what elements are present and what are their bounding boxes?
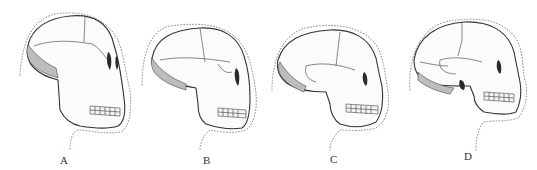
- panel-c-skull: [272, 25, 389, 150]
- panel-b-label: B: [203, 155, 210, 166]
- panel-d-label: D: [464, 151, 472, 162]
- panel-b-skull: [142, 24, 256, 150]
- skull-comparison-figure: A B C D: [0, 0, 537, 170]
- skull-illustrations: [0, 0, 537, 170]
- panel-c-label: C: [330, 154, 337, 165]
- panel-a-skull: [20, 13, 131, 150]
- panel-d-skull: [410, 19, 527, 150]
- panel-a-label: A: [60, 155, 68, 166]
